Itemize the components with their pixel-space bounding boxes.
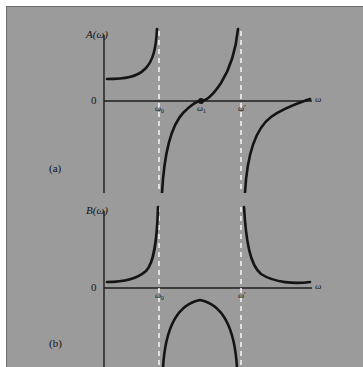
panel-b-y-axis-label-arg: (ω) xyxy=(93,204,108,216)
panel-a-x-axis-label: ω xyxy=(315,95,321,104)
panel-a-tick-omega-prime: ω′ xyxy=(238,104,246,113)
panel-b-y-axis-label-main: B xyxy=(86,204,93,216)
panel-a-right-branch xyxy=(245,99,310,193)
panel-b-right-branch xyxy=(244,207,310,283)
panel-b-left-branch xyxy=(107,207,158,282)
panel-a-left-branch xyxy=(107,29,157,79)
panel-a-caption: (a) xyxy=(49,163,61,174)
panel-a-tick-omega-1: ω1 xyxy=(197,104,206,114)
panel-a: A(ω) 0 ω0 ω1 ω′ ω (a) xyxy=(7,7,363,193)
panel-a-y-axis-label-arg: (ω) xyxy=(93,28,108,40)
panel-a-tick-omega-0: ω0 xyxy=(155,104,164,114)
panel-b-origin-label: 0 xyxy=(91,282,97,293)
panel-b: B(ω) 0 ω0 ω′ ω (b) xyxy=(7,193,363,367)
panel-a-origin-label: 0 xyxy=(91,95,97,106)
figure-plate: A(ω) 0 ω0 ω1 ω′ ω (a) xyxy=(6,6,363,367)
panel-a-y-axis-label-main: A xyxy=(86,28,93,40)
panel-b-caption: (b) xyxy=(49,338,62,349)
panel-b-x-axis-label: ω xyxy=(315,282,321,291)
panel-a-y-axis-label: A(ω) xyxy=(86,29,108,40)
panel-b-tick-omega-0: ω0 xyxy=(155,291,164,301)
panel-b-y-axis-label: B(ω) xyxy=(86,205,108,216)
panel-b-tick-omega-prime: ω′ xyxy=(238,291,246,300)
panel-b-middle-branch xyxy=(163,300,237,367)
figure-root: A(ω) 0 ω0 ω1 ω′ ω (a) xyxy=(0,0,363,367)
